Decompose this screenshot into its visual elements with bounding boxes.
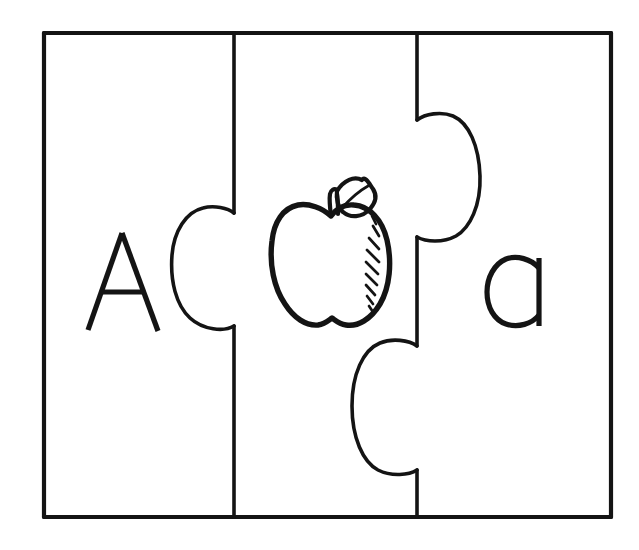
divider-right-lower-notch [352,340,417,474]
divider-left-notch [172,207,234,329]
apple-illustration [271,178,389,325]
letter-a-left-diagonal [88,233,122,330]
apple-shading-hatch [366,216,379,312]
apple-hatch-line [367,296,373,304]
apple-hatch-line [367,250,379,262]
apple-hatch-line [369,238,379,249]
apple-leaf [337,178,376,216]
letter-uppercase-a [88,233,158,331]
letter-a-right-diagonal [122,233,158,331]
piece-divider-right [352,33,480,517]
puzzle-illustration [0,0,639,550]
letter-lowercase-a-bowl [487,257,539,325]
puzzle-frame [44,33,611,517]
piece-divider-left [172,33,234,517]
apple-body-outline [271,205,389,326]
apple-hatch-line [366,285,375,295]
divider-right-upper-tab [417,113,480,241]
letter-lowercase-a [487,257,539,326]
apple-hatch-line [373,226,379,236]
worksheet-canvas: Alphabet Puzzle Worksheet A a Apple line… [0,0,639,550]
apple-hatch-line [369,306,373,312]
apple-hatch-line [366,262,378,274]
apple-hatch-line [366,274,377,285]
